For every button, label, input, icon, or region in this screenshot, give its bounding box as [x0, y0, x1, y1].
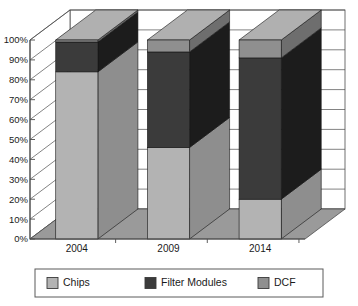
value-axis-tick-label: 30%	[9, 174, 29, 185]
segment-front-face	[239, 58, 281, 199]
legend-item-chips[interactable]: Chips	[47, 276, 90, 288]
stacked-bar-chart-3d: 0%10%20%30%40%50%60%70%80%90%100% 200420…	[0, 0, 358, 306]
legend-label: Chips	[63, 276, 90, 288]
segment-front-face	[239, 199, 281, 239]
legend: ChipsFilter ModulesDCF	[35, 269, 323, 297]
segment-front-face	[147, 147, 189, 239]
segment-front-face	[56, 42, 98, 72]
segment-front-face	[56, 72, 98, 239]
category-axis-tick-label: 2014	[249, 243, 272, 254]
category-axis-labels: 200420092014	[66, 239, 299, 254]
bar-2014	[239, 10, 321, 239]
segment-front-face	[147, 40, 189, 52]
legend-swatch	[47, 278, 58, 289]
legend-item-dcf[interactable]: DCF	[258, 276, 296, 288]
segment-front-face	[147, 52, 189, 148]
value-axis-tick-label: 60%	[9, 114, 29, 125]
value-axis-tick-label: 80%	[9, 74, 29, 85]
bar-group	[56, 10, 322, 239]
legend-label: DCF	[274, 276, 296, 288]
segment-front-face	[56, 40, 98, 42]
value-axis-tick-label: 20%	[9, 194, 29, 205]
value-axis-tick-label: 100%	[4, 34, 29, 45]
value-axis-tick-label: 70%	[9, 94, 29, 105]
segment-front-face	[239, 40, 281, 58]
legend-swatch	[145, 278, 156, 289]
bar-2004	[56, 10, 138, 239]
category-axis-tick-label: 2009	[157, 243, 180, 254]
category-axis-tick-label: 2004	[66, 243, 89, 254]
legend-swatch	[258, 278, 269, 289]
value-axis-tick-label: 0%	[14, 233, 28, 244]
bar-2009	[147, 10, 229, 239]
chart-container: 0%10%20%30%40%50%60%70%80%90%100% 200420…	[0, 0, 358, 306]
segment-side-face	[98, 42, 138, 239]
value-axis-tick-label: 50%	[9, 134, 29, 145]
legend-items: ChipsFilter ModulesDCF	[47, 276, 296, 288]
plot-area	[30, 10, 345, 239]
value-axis-tick-label: 40%	[9, 154, 29, 165]
legend-label: Filter Modules	[161, 276, 227, 288]
value-axis-tick-label: 90%	[9, 54, 29, 65]
value-axis-tick-label: 10%	[9, 214, 29, 225]
